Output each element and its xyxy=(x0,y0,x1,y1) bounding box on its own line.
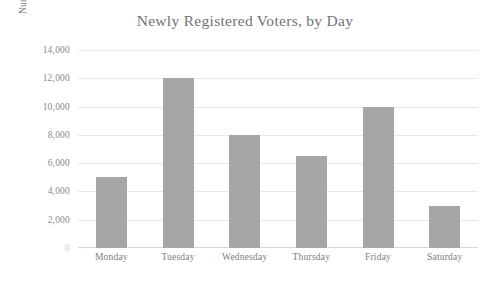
bar-slot xyxy=(345,50,412,248)
y-axis-tick-labels: 14,00012,00010,0008,0006,0004,0002,0000 xyxy=(0,50,70,248)
bar[interactable] xyxy=(229,135,260,248)
y-axis-tick: 6,000 xyxy=(0,158,70,168)
bar-slot xyxy=(145,50,212,248)
bar-chart: Newly Registered Voters, by Day Number o… xyxy=(0,0,490,287)
x-axis-tick: Thursday xyxy=(278,252,345,262)
x-axis-tick: Saturday xyxy=(411,252,478,262)
x-axis-tick: Friday xyxy=(345,252,412,262)
y-axis-tick: 12,000 xyxy=(0,73,70,83)
y-axis-tick: 10,000 xyxy=(0,102,70,112)
x-axis-tick: Wednesday xyxy=(211,252,278,262)
chart-title: Newly Registered Voters, by Day xyxy=(0,12,490,30)
y-axis-tick: 2,000 xyxy=(0,215,70,225)
bar-slot xyxy=(78,50,145,248)
bar[interactable] xyxy=(429,206,460,248)
bar[interactable] xyxy=(163,78,194,248)
bar[interactable] xyxy=(96,177,127,248)
bar-slot xyxy=(278,50,345,248)
bar[interactable] xyxy=(296,156,327,248)
x-axis-tick: Tuesday xyxy=(145,252,212,262)
y-axis-tick: 14,000 xyxy=(0,45,70,55)
bar-slot xyxy=(211,50,278,248)
y-axis-tick: 4,000 xyxy=(0,186,70,196)
y-axis-tick: 0 xyxy=(0,243,70,253)
x-axis-tick: Monday xyxy=(78,252,145,262)
bar[interactable] xyxy=(363,107,394,248)
plot-area xyxy=(78,50,478,248)
y-axis-tick: 8,000 xyxy=(0,130,70,140)
x-axis-tick-labels: MondayTuesdayWednesdayThursdayFridaySatu… xyxy=(78,252,478,262)
bar-slot xyxy=(411,50,478,248)
bar-series xyxy=(78,50,478,248)
